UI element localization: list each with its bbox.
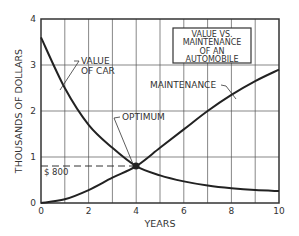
- x-tick-label: 4: [133, 206, 139, 216]
- maintenance-label: MAINTENANCE: [150, 80, 216, 90]
- x-tick-label: 2: [86, 206, 92, 216]
- optimum-point: [133, 163, 140, 170]
- y-tick-label: 1: [30, 152, 36, 162]
- optimum-label: OPTIMUM: [122, 112, 165, 122]
- y-tick-label: 2: [30, 106, 36, 116]
- y-axis-label: THOUSANDS OF DOLLARS: [13, 49, 24, 174]
- x-axis-label: YEARS: [144, 218, 176, 229]
- value-of-car-label-2: OF CAR: [81, 66, 115, 76]
- dollar-800-label: $ 800: [44, 167, 68, 177]
- y-tick-label: 3: [30, 60, 36, 70]
- x-tick-label: 6: [181, 206, 187, 216]
- title-line: AUTOMOBILE: [185, 55, 238, 64]
- y-tick-label: 4: [30, 14, 36, 24]
- chart: 024681001234 THOUSANDS OF DOLLARS YEARS …: [0, 0, 299, 236]
- x-tick-label: 0: [38, 206, 44, 216]
- value-of-car-label-1: VALUE: [81, 56, 110, 66]
- y-tick-label: 0: [30, 198, 36, 208]
- x-tick-label: 10: [273, 206, 285, 216]
- x-tick-label: 8: [229, 206, 235, 216]
